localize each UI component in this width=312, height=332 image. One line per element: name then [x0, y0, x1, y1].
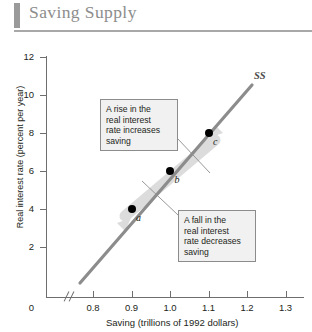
data-point-c [205, 129, 213, 137]
page-header: Saving Supply [0, 0, 312, 34]
annotation-fall-in-rate: A fall in the real interest rate decreas… [178, 210, 256, 262]
page-title: Saving Supply [29, 2, 137, 23]
series-label-ss: SS [254, 70, 266, 81]
data-point-label-b: b [175, 174, 180, 185]
annotation-rise-in-rate: A rise in the real interest rate increas… [100, 99, 178, 151]
data-point-label-c: c [213, 136, 217, 147]
chart-plot-area: 12 10 8 6 4 2 0 Real interest rate (perc… [0, 34, 312, 332]
title-accent-bar [14, 3, 20, 28]
data-point-a [128, 205, 136, 213]
data-point-b [166, 167, 174, 175]
header-divider [14, 30, 312, 32]
data-point-label-a: a [136, 212, 141, 223]
